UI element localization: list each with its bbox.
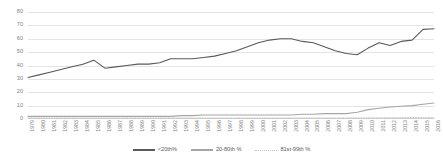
x-axis-tick-label: 2004: [305, 120, 310, 132]
x-axis-tick-label: 1997: [228, 120, 233, 132]
x-axis-tick-label: 2003: [294, 120, 299, 132]
x-axis-tick-label: 2010: [370, 120, 375, 132]
x-axis-tick-label: 1991: [162, 120, 167, 132]
y-axis: 01020304050607080: [0, 12, 26, 119]
series-line: [28, 29, 434, 78]
legend-label: 81st-99th %: [280, 147, 310, 153]
y-axis-tick-label: 60: [17, 36, 23, 42]
x-axis-tick-label: 2007: [337, 120, 342, 132]
x-axis-tick-label: 1979: [30, 120, 35, 132]
x-axis-tick-label: 1994: [195, 120, 200, 132]
x-axis-tick-label: 1999: [250, 120, 255, 132]
x-axis-tick-label: 1996: [217, 120, 222, 132]
x-axis-tick-label: 2001: [272, 120, 277, 132]
y-axis-tick-label: 40: [17, 63, 23, 69]
x-axis-tick-label: 1990: [151, 120, 156, 132]
x-axis-tick-label: 2011: [381, 120, 386, 131]
line-chart: 01020304050607080 1979198019811982198319…: [0, 0, 443, 160]
x-axis-tick-label: 1988: [129, 120, 134, 132]
x-axis-tick-label: 2000: [261, 120, 266, 132]
y-axis-tick-label: 0: [20, 116, 23, 122]
plot-area: [28, 12, 434, 119]
series-layer: [28, 12, 434, 119]
legend-item[interactable]: <20th%: [133, 147, 177, 153]
x-axis-tick-label: 2009: [359, 120, 364, 132]
y-axis-tick-label: 20: [17, 89, 23, 95]
x-axis-tick-label: 2006: [326, 120, 331, 132]
x-axis-tick-label: 2016: [436, 120, 441, 132]
legend-swatch: [255, 150, 277, 151]
y-axis-tick-label: 10: [17, 103, 23, 109]
x-axis-tick-label: 1989: [140, 120, 145, 132]
chart-legend: <20th%20-80th %81st-99th %: [0, 143, 443, 157]
x-axis-tick-label: 1981: [52, 120, 57, 132]
x-axis-tick-label: 1982: [63, 120, 68, 132]
x-axis-tick-label: 1984: [85, 120, 90, 132]
x-axis-tick-label: 2012: [392, 120, 397, 132]
x-axis-tick-label: 2002: [283, 120, 288, 132]
x-axis-tick-label: 1986: [107, 120, 112, 132]
y-axis-tick-label: 80: [17, 9, 23, 15]
legend-item[interactable]: 81st-99th %: [255, 147, 310, 153]
x-axis-tick-label: 2013: [403, 120, 408, 132]
x-axis-tick-label: 1993: [184, 120, 189, 132]
x-axis-tick-label: 1983: [74, 120, 79, 132]
x-axis-tick-label: 2014: [414, 120, 419, 132]
legend-swatch: [191, 149, 213, 151]
x-axis-tick-label: 1985: [96, 120, 101, 132]
y-axis-tick-label: 70: [17, 23, 23, 29]
x-axis-tick-label: 2015: [425, 120, 430, 132]
x-axis-tick-label: 1998: [239, 120, 244, 132]
x-axis-tick-label: 1992: [173, 120, 178, 132]
legend-item[interactable]: 20-80th %: [191, 147, 242, 153]
legend-label: <20th%: [158, 147, 177, 153]
x-axis-tick-label: 1980: [41, 120, 46, 132]
y-axis-tick-label: 50: [17, 49, 23, 55]
x-axis-tick-label: 1995: [206, 120, 211, 132]
legend-label: 20-80th %: [216, 147, 242, 153]
series-line: [28, 103, 434, 116]
x-axis-tick-label: 2005: [315, 120, 320, 132]
x-axis-tick-label: 1987: [118, 120, 123, 132]
legend-swatch: [133, 149, 155, 151]
x-axis-tick-label: 2008: [348, 120, 353, 132]
y-axis-tick-label: 30: [17, 76, 23, 82]
x-axis: 1979198019811982198319841985198619871988…: [28, 120, 434, 144]
